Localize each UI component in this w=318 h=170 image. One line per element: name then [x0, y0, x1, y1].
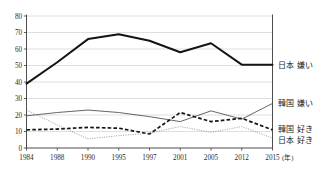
- y-axis-tick-label: 0: [19, 145, 23, 153]
- x-axis-tick-label: 2012: [235, 154, 250, 162]
- chart-canvas: 01020304050607080 1984198819901995199720…: [0, 0, 318, 170]
- legend-label-korea-dislike: 韓国 嫌い: [278, 98, 313, 108]
- y-axis-tick-label: 20: [15, 112, 23, 120]
- gridlines-group: [27, 16, 273, 132]
- x-axis-tick-label: 1988: [50, 154, 65, 162]
- y-axis-tick-label: 70: [15, 29, 23, 37]
- x-axis-tick-label: 2001: [173, 154, 188, 162]
- legend-label-japan-like: 日本 好き: [278, 135, 313, 145]
- y-axis-tick-label: 30: [15, 95, 23, 103]
- x-axis-labels-group: 198419881990199519972001200520122015(年): [19, 153, 293, 162]
- data-series-group: [27, 34, 273, 139]
- x-axis-tick-label: 1997: [142, 154, 157, 162]
- y-axis-tick-label: 60: [15, 46, 23, 54]
- y-axis-tick-label: 80: [15, 13, 23, 21]
- x-axis-tick-label: 2015: [265, 154, 280, 162]
- x-axis-tick-label: 1995: [112, 154, 127, 162]
- x-axis-tick-label: 1984: [19, 154, 34, 162]
- y-axis-tick-label: 10: [15, 128, 23, 136]
- line-chart-figure: 01020304050607080 1984198819901995199720…: [0, 0, 318, 170]
- legend-label-korea-like: 韓国 好き: [278, 124, 313, 134]
- legend-label-japan-dislike: 日本 嫌い: [278, 60, 313, 70]
- series-japan-dislike: [27, 34, 273, 84]
- x-axis-unit-label: (年): [282, 153, 293, 162]
- x-axis-tick-label: 2005: [204, 154, 219, 162]
- y-axis-labels-group: 01020304050607080: [15, 13, 23, 153]
- series-korea-like: [27, 113, 273, 134]
- y-axis-tick-label: 50: [15, 62, 23, 70]
- y-axis-tick-label: 40: [15, 79, 23, 87]
- legend-group: 日本 嫌い韓国 嫌い韓国 好き日本 好き: [278, 60, 313, 146]
- x-axis-tick-label: 1990: [81, 154, 96, 162]
